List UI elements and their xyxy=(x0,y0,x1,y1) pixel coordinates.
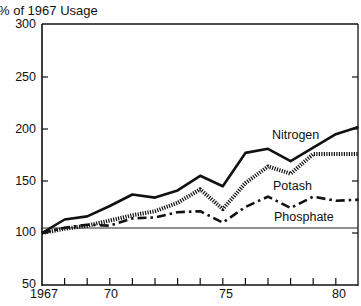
legend-potash: Potash xyxy=(273,179,312,193)
legend-phosphate: Phosphate xyxy=(274,210,334,224)
line-chart-plot xyxy=(0,0,361,306)
legend-nitrogen: Nitrogen xyxy=(272,128,319,142)
